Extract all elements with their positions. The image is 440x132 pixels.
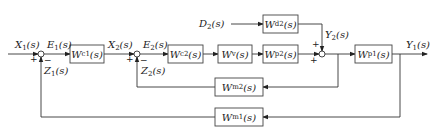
sign-sum1-feedback: − bbox=[44, 56, 52, 65]
signal-z1: Z1(s) bbox=[44, 66, 68, 78]
sign-sum3-left: + bbox=[310, 56, 318, 65]
block-wm1: Wm1(s) bbox=[215, 108, 263, 126]
sign-sum2-feedback: − bbox=[140, 56, 148, 65]
block-wd2: Wd2(s) bbox=[263, 15, 298, 33]
signal-x2: X2(s) bbox=[108, 40, 133, 52]
block-wm2: Wm2(s) bbox=[215, 78, 263, 96]
block-diagram: X1(s) E1(s) Z1(s) X2(s) E2(s) Z2(s) D2(s… bbox=[0, 0, 440, 132]
block-wc2: Wc2(s) bbox=[168, 45, 203, 63]
block-wp2: Wp2(s) bbox=[263, 45, 298, 63]
sign-sum2-input: + bbox=[126, 55, 134, 64]
signal-x1: X1(s) bbox=[15, 40, 40, 52]
signal-d2: D2(s) bbox=[199, 19, 224, 31]
signal-e2: E2(s) bbox=[143, 40, 168, 52]
block-wc1: Wc1(s) bbox=[70, 45, 104, 63]
block-wv: Wv(s) bbox=[218, 45, 252, 63]
signal-z2: Z2(s) bbox=[141, 66, 165, 78]
signal-y2: Y2(s) bbox=[325, 30, 349, 42]
sign-sum1-input: + bbox=[30, 55, 38, 64]
signal-e1: E1(s) bbox=[47, 40, 72, 52]
summing-junction-3 bbox=[319, 51, 325, 57]
signal-y1: Y1(s) bbox=[406, 40, 430, 52]
block-wp1: Wp1(s) bbox=[355, 45, 392, 63]
sign-sum3-top: + bbox=[312, 40, 320, 49]
